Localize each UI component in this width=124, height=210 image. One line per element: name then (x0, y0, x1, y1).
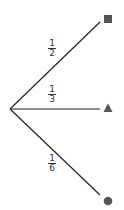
denominator: 2 (46, 49, 58, 58)
probability-tree-diagram: 1 2 1 3 1 6 (0, 0, 124, 210)
denominator: 3 (46, 95, 58, 104)
probability-label-middle: 1 3 (46, 85, 58, 104)
probability-label-top: 1 2 (46, 39, 58, 58)
square-icon (104, 15, 112, 23)
circle-icon (104, 197, 113, 206)
denominator: 6 (46, 164, 58, 173)
numerator: 1 (46, 154, 58, 163)
tree-canvas (0, 0, 124, 210)
numerator: 1 (46, 39, 58, 48)
numerator: 1 (46, 85, 58, 94)
branch-line-bottom (10, 109, 100, 195)
triangle-icon (104, 104, 113, 113)
probability-label-bottom: 1 6 (46, 154, 58, 173)
